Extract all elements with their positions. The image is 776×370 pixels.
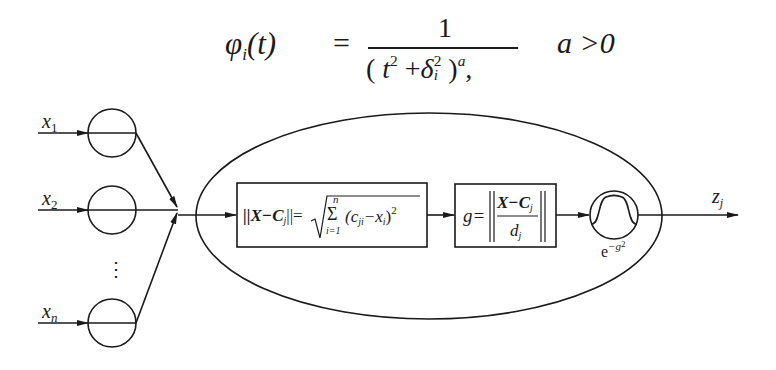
norm-denominator: dj (510, 221, 522, 241)
converge-arrow-n (136, 213, 177, 323)
converge-arrow-1 (136, 133, 177, 207)
output-label: zj (711, 185, 724, 210)
input-node-1 (88, 109, 136, 157)
input-node-2 (88, 186, 136, 234)
ellipsis: ⋮ (106, 258, 126, 280)
input-label-2: x2 (41, 187, 57, 212)
input-label-1: x1 (41, 110, 57, 135)
norm-numerator: X−Cj (496, 193, 533, 213)
sum-symbol: Σ (327, 204, 337, 224)
norm-lhs: g= (463, 205, 485, 226)
input-node-n (88, 299, 136, 347)
rbf-network-diagram: x1 x2 xn ⋮ ||X−Cj||= n Σ i=1 (cji−xi)2 g… (0, 0, 776, 370)
gaussian-activation-icon (590, 191, 638, 239)
sum-lower: i=1 (326, 225, 341, 236)
distance-term: (cji−xi)2 (345, 204, 397, 227)
distance-lhs: ||X−Cj||= (243, 206, 303, 226)
gaussian-label: e−g2 (601, 239, 626, 260)
input-label-n: xn (41, 300, 57, 325)
